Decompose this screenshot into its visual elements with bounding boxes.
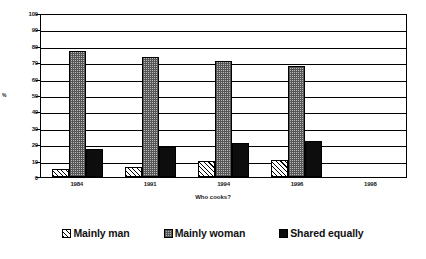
bar-mainly-man	[271, 160, 288, 177]
bars	[187, 15, 260, 177]
legend-item-mainly-woman: Mainly woman	[164, 228, 246, 239]
bar-shared-equally	[232, 143, 249, 177]
bars	[260, 15, 333, 177]
legend-item-mainly-man: Mainly man	[62, 228, 129, 239]
legend-label: Shared equally	[290, 228, 363, 239]
plot-area	[40, 14, 407, 178]
x-axis-title: Who cooks?	[0, 194, 426, 201]
x-axis-tick-labels: 1984 1991 1994 1996 1998	[40, 181, 407, 188]
legend-swatch-icon	[62, 229, 71, 238]
plot-wrapper: 100 90 80 70 60 50 40 30 20 10 0 %	[0, 0, 426, 214]
legend-label: Mainly man	[73, 228, 129, 239]
bar-mainly-man	[52, 169, 69, 177]
bar-shared-equally	[86, 149, 103, 177]
x-tick-label-1998: 1998	[334, 181, 407, 188]
bar-shared-equally	[159, 147, 176, 177]
x-tick-label-1984: 1984	[40, 181, 113, 188]
x-tick-label-1996: 1996	[260, 181, 333, 188]
bars	[41, 15, 114, 177]
bar-group-1996	[260, 15, 333, 177]
bar-group-1984	[41, 15, 114, 177]
x-tick-label-1994: 1994	[187, 181, 260, 188]
bar-chart-figure: 100 90 80 70 60 50 40 30 20 10 0 %	[0, 0, 426, 259]
legend-label: Mainly woman	[175, 228, 246, 239]
bar-mainly-woman	[215, 61, 232, 177]
bar-groups	[41, 15, 406, 177]
legend-item-shared-equally: Shared equally	[279, 228, 363, 239]
chart-legend: Mainly man Mainly woman Shared equally	[0, 221, 426, 245]
bar-mainly-woman	[69, 51, 86, 177]
bar-mainly-woman	[142, 57, 159, 177]
legend-swatch-icon	[279, 229, 288, 238]
bar-shared-equally	[305, 141, 322, 177]
bar-mainly-man	[198, 161, 215, 177]
bar-mainly-man	[125, 167, 142, 177]
legend-swatch-icon	[164, 229, 173, 238]
bar-group-1991	[114, 15, 187, 177]
bar-mainly-woman	[288, 66, 305, 178]
bars	[114, 15, 187, 177]
bars	[333, 15, 406, 177]
bar-group-1998	[333, 15, 406, 177]
bar-group-1994	[187, 15, 260, 177]
x-tick-label-1991: 1991	[113, 181, 186, 188]
